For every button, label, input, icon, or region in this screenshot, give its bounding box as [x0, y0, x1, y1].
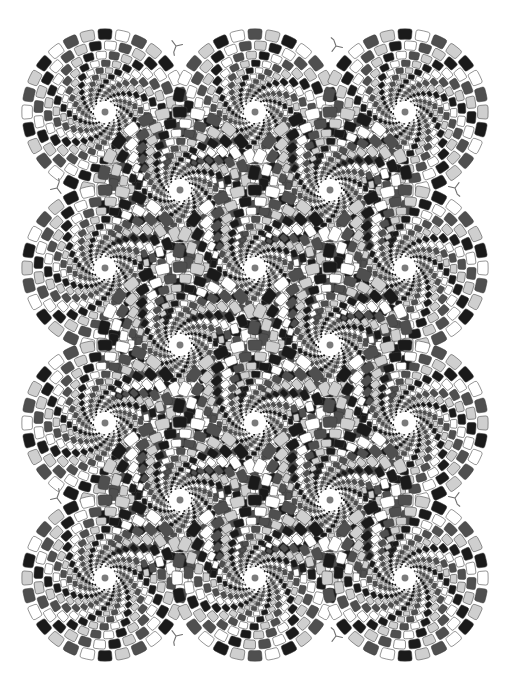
snake-tile [265, 496, 280, 508]
snake-tile [475, 243, 487, 258]
snake-tile [400, 475, 412, 490]
disc-core [177, 187, 184, 194]
disc-core [252, 109, 259, 116]
snake-tile [415, 496, 430, 508]
snake-tile [230, 648, 245, 660]
snake-tile [179, 119, 192, 129]
snake-tile [340, 418, 355, 430]
snake-tile [172, 571, 183, 585]
snake-tile [80, 648, 95, 660]
snake-tile [475, 553, 487, 568]
snake-tile [393, 639, 406, 649]
snake-tile [115, 648, 130, 660]
snake-tile [23, 398, 35, 413]
snake-tile [173, 417, 187, 428]
snake-tile [254, 507, 267, 517]
snake-tile [329, 119, 342, 129]
snake-tile [173, 398, 185, 413]
snake-tile [323, 243, 335, 258]
disc-core [102, 420, 109, 427]
snake-tile [190, 418, 205, 430]
snake-tile [466, 422, 476, 435]
snake-tile [115, 496, 130, 508]
snake-tile [194, 563, 203, 574]
snake-tile [323, 87, 335, 102]
snake-tile [115, 341, 130, 353]
snake-tile [34, 100, 44, 113]
snake-tile [380, 186, 395, 198]
snake-tile [466, 267, 476, 280]
snake-tile [23, 433, 35, 448]
snake-tile [179, 429, 192, 439]
snake-tile [80, 30, 95, 42]
snake-tile [34, 256, 44, 269]
snake-tile [305, 263, 320, 275]
snake-tile [183, 129, 194, 138]
snake-tile [475, 433, 487, 448]
snake-tile [115, 30, 130, 42]
snake-tile [457, 115, 466, 126]
snake-tile [119, 485, 128, 496]
snake-tile [475, 588, 487, 603]
snake-tile [194, 253, 203, 264]
snake-tile [155, 108, 170, 120]
snake-tile [404, 197, 417, 207]
snake-tile [104, 507, 117, 517]
snake-tile [248, 165, 260, 180]
disc-core [177, 342, 184, 349]
snake-tile [398, 495, 412, 506]
snake-tile [478, 416, 489, 430]
snake-tile [258, 207, 269, 216]
snake-tile [98, 495, 112, 506]
snake-tile [269, 175, 278, 186]
snake-tile [305, 108, 320, 120]
snake-tile [323, 398, 335, 413]
snake-tile [98, 29, 112, 40]
snake-tile [415, 648, 430, 660]
snake-tile [380, 341, 395, 353]
snake-tile [415, 30, 430, 42]
snake-tile [265, 30, 280, 42]
snake-tile [329, 429, 342, 439]
snake-tile [190, 263, 205, 275]
snake-tile [478, 105, 489, 119]
snake-tile [400, 320, 412, 335]
snake-tile [22, 261, 33, 275]
snake-tile [44, 97, 53, 108]
snake-tile [184, 566, 194, 579]
snake-tile [22, 105, 33, 119]
snake-tile [400, 165, 412, 180]
snake-tile [80, 341, 95, 353]
snake-tile [44, 253, 53, 264]
snake-tile [248, 320, 260, 335]
snake-tile [398, 185, 412, 196]
disc-core [327, 342, 334, 349]
snake-tile [44, 408, 53, 419]
snake-tile [466, 577, 476, 590]
snake-tile [398, 651, 412, 662]
snake-tile [80, 496, 95, 508]
snake-tile [265, 648, 280, 660]
snake-tile [157, 581, 166, 592]
snake-tile [344, 563, 353, 574]
disc-core [402, 420, 409, 427]
snake-tile [333, 129, 344, 138]
disc-core [402, 109, 409, 116]
snake-tile [466, 111, 476, 124]
snake-tile [265, 341, 280, 353]
snake-tile [333, 284, 344, 293]
snake-tile [340, 263, 355, 275]
snake-tile [98, 185, 112, 196]
snake-tile [408, 207, 419, 216]
snake-tile [98, 320, 110, 335]
snake-tile [155, 263, 170, 275]
snake-tile [23, 122, 35, 137]
snake-tile [22, 571, 33, 585]
snake-tile [307, 581, 316, 592]
disc-core [177, 497, 184, 504]
snake-tile [230, 186, 245, 198]
snake-tile [119, 330, 128, 341]
snake-tile [329, 274, 342, 284]
snake-tile [258, 517, 269, 526]
snake-tile [475, 87, 487, 102]
